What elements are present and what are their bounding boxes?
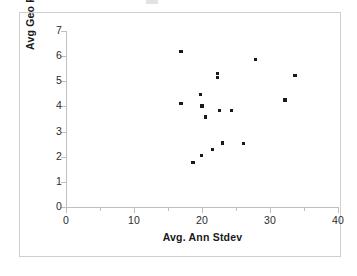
scatter-point — [211, 148, 214, 151]
scatter-point — [283, 98, 286, 101]
scatter-point — [242, 142, 245, 145]
scatter-point — [204, 115, 207, 118]
x-axis-tick — [202, 208, 203, 213]
x-axis-minor-tick — [236, 208, 237, 211]
plot-area — [66, 31, 338, 207]
y-axis-tick-label: 1 — [36, 175, 62, 187]
x-axis-minor-tick — [100, 208, 101, 211]
x-axis-minor-tick — [304, 208, 305, 211]
x-axis-tick — [270, 208, 271, 213]
scatter-point — [221, 141, 224, 144]
scatter-chart-figure: 01234567 010203040 Avg Geo Return Avg. A… — [0, 0, 357, 276]
x-axis-tick — [338, 208, 339, 213]
x-axis-tick-label: 30 — [253, 214, 287, 226]
scatter-point — [216, 72, 219, 75]
scatter-point — [191, 161, 194, 164]
y-axis-tick-label: 0 — [36, 200, 62, 212]
y-axis-tick-label: 7 — [36, 24, 62, 36]
y-axis-tick-label: 4 — [36, 99, 62, 111]
scatter-point — [179, 102, 182, 105]
x-axis-tick-label: 10 — [117, 214, 151, 226]
x-axis-tick — [134, 208, 135, 213]
y-axis-title-text: Avg Geo Return — [24, 0, 36, 50]
x-axis-tick-label: 40 — [321, 214, 355, 226]
scatter-point — [230, 109, 233, 112]
y-axis-tick-label: 6 — [36, 49, 62, 61]
y-axis-tick-label: 5 — [36, 74, 62, 86]
y-axis-tick-label: 3 — [36, 125, 62, 137]
y-axis-tick-label: 2 — [36, 150, 62, 162]
x-axis-title: Avg. Ann Stdev — [66, 231, 339, 243]
scatter-point — [200, 104, 203, 107]
scatter-point — [293, 74, 296, 77]
x-axis-tick-label: 20 — [185, 214, 219, 226]
scatter-point — [216, 76, 219, 79]
scatter-point — [218, 109, 221, 112]
x-axis-tick-label: 0 — [49, 214, 83, 226]
scatter-point — [179, 50, 182, 53]
scatter-point — [200, 154, 203, 157]
x-axis-minor-tick — [168, 208, 169, 211]
y-axis-title: Avg Geo Return — [24, 0, 36, 50]
x-axis-tick — [66, 208, 67, 213]
scatter-point — [254, 58, 257, 61]
scan-artifact — [146, 0, 158, 4]
scatter-point — [199, 93, 202, 96]
